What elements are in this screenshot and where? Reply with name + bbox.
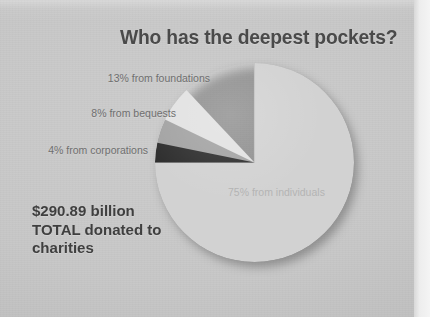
total-line-1: $290.89 billion — [32, 202, 178, 221]
total-callout: $290.89 billion TOTAL donated to chariti… — [32, 202, 178, 258]
label-corporations: 4% from corporations — [0, 144, 148, 156]
infographic-scan: Who has the deepest pockets? 13% from fo… — [0, 0, 430, 317]
total-line-2: TOTAL donated to — [32, 221, 178, 240]
chart-title: Who has the deepest pockets? — [120, 25, 379, 49]
page-right-margin — [414, 0, 430, 317]
pie-chart — [155, 63, 354, 262]
total-line-3: charities — [32, 239, 178, 258]
pie-svg — [155, 63, 354, 262]
label-individuals: 75% from individuals — [228, 186, 325, 198]
label-bequests: 8% from bequests — [26, 107, 176, 119]
pie-slices — [155, 63, 354, 262]
label-foundations: 13% from foundations — [60, 72, 210, 84]
